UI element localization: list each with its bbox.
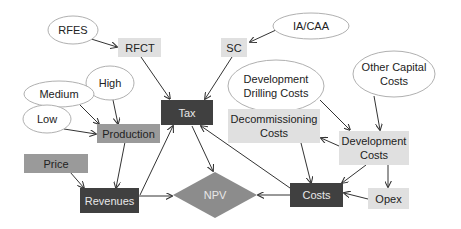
node-tax-label: Tax [178, 107, 196, 119]
node-price-label: Price [43, 158, 68, 170]
node-npv-label: NPV [204, 189, 227, 201]
node-revenues-label: Revenues [85, 195, 135, 207]
node-low-label: Low [37, 113, 57, 125]
node-ia-caa-label: IA/CAA [293, 20, 330, 32]
node-low[interactable]: Low [23, 105, 71, 133]
node-rfes-label: RFES [58, 24, 87, 36]
node-sc-label: SC [226, 42, 241, 54]
edge-rfct-tax [141, 57, 170, 99]
edge-low-production [64, 129, 96, 134]
node-sc[interactable]: SC [221, 38, 247, 57]
node-rfct[interactable]: RFCT [118, 38, 161, 57]
node-medium[interactable]: Medium [24, 81, 94, 107]
edge-devcosts-decommissioning [321, 138, 339, 146]
edge-price-revenues [70, 172, 84, 188]
node-decommissioning-costs[interactable]: Decommissioning Costs [228, 109, 320, 143]
node-opex[interactable]: Opex [368, 188, 409, 209]
edge-production-revenues [116, 142, 125, 188]
node-dev-drilling-label-2: Drilling Costs [244, 87, 309, 99]
node-dev-costs-label-2: Costs [360, 149, 389, 161]
node-tax[interactable]: Tax [161, 100, 213, 125]
node-opex-label: Opex [375, 193, 402, 205]
node-decommissioning-label-1: Decommissioning [231, 113, 318, 125]
node-development-drilling-costs[interactable]: Development Drilling Costs [228, 60, 324, 112]
node-other-capital-costs[interactable]: Other Capital Costs [353, 51, 435, 97]
edge-devdrilling-devcosts [320, 100, 350, 130]
node-costs-label: Costs [302, 189, 331, 201]
edge-high-production [113, 100, 118, 124]
node-revenues[interactable]: Revenues [80, 188, 139, 213]
edge-devcosts-costs [342, 165, 366, 183]
node-rfes[interactable]: RFES [48, 16, 98, 44]
edge-medium-production [80, 105, 99, 124]
node-npv[interactable]: NPV [173, 172, 257, 218]
edge-othercapital-devcosts [374, 96, 380, 130]
node-medium-label: Medium [39, 88, 78, 100]
edge-opex-costs [344, 193, 368, 199]
node-other-capital-label-1: Other Capital [362, 61, 427, 73]
node-high-label: High [99, 77, 122, 89]
node-other-capital-label-2: Costs [380, 75, 409, 87]
node-rfct-label: RFCT [125, 42, 155, 54]
node-price[interactable]: Price [24, 154, 88, 173]
influence-diagram: RFES RFCT SC IA/CAA Tax High Medium Low … [0, 0, 461, 229]
node-production-label: Production [102, 128, 155, 140]
node-costs[interactable]: Costs [290, 183, 343, 207]
node-production[interactable]: Production [97, 124, 160, 143]
node-dev-drilling-label-1: Development [244, 73, 309, 85]
edge-sc-tax [205, 57, 232, 99]
node-development-costs[interactable]: Development Costs [339, 131, 409, 165]
node-decommissioning-label-2: Costs [260, 127, 289, 139]
edge-decommissioning-costs [301, 143, 311, 183]
node-dev-costs-label-1: Development [342, 135, 407, 147]
edge-iacaa-sc [250, 30, 276, 42]
node-ia-caa[interactable]: IA/CAA [273, 13, 349, 39]
